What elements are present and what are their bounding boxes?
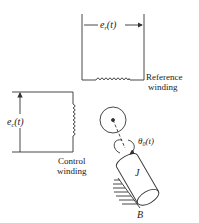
reference-winding-caption: Reference (146, 72, 182, 82)
servo-motor-diagram: er(t) Reference winding ec(t) Control wi… (0, 0, 199, 223)
rotor (100, 107, 161, 209)
control-winding-caption-2: winding (57, 166, 87, 176)
reference-voltage-label: er(t) (100, 19, 117, 31)
reference-coil-icon (96, 78, 130, 80)
angle-label: θ0(t) (138, 136, 154, 147)
control-voltage-label: ec(t) (7, 116, 24, 128)
rotation-arrow-icon (114, 140, 122, 153)
friction-hatching-icon (113, 178, 140, 208)
friction-label: B (137, 209, 143, 220)
inertia-label: J (135, 167, 140, 178)
control-winding-caption: Control (58, 156, 86, 166)
reference-winding-caption-2: winding (148, 82, 178, 92)
control-coil-icon (73, 104, 75, 136)
